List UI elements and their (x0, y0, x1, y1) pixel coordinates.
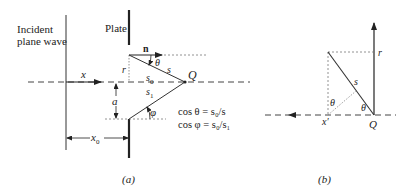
s0-label: s0 (146, 73, 153, 86)
n-label: n (143, 44, 149, 54)
r-label-b: r (378, 48, 382, 58)
point-q-a (183, 80, 186, 83)
q-label-a: Q (188, 69, 197, 81)
incident-label-line2: plane wave (17, 36, 67, 47)
theta-arc (149, 55, 151, 65)
s-label-b: s (354, 77, 358, 87)
s1-line (129, 82, 185, 119)
equation-cos-theta: cos θ = s₀/s (178, 107, 226, 118)
r-label-a: r (122, 65, 126, 75)
theta-label-b2: θ (361, 103, 366, 113)
a-label: a (112, 96, 118, 107)
caption-b: (b) (318, 174, 331, 185)
plate-label: Plate (105, 23, 127, 34)
figure-svg (0, 0, 410, 195)
x-label-a: x (81, 69, 86, 80)
axis-arrowhead-left (288, 112, 296, 118)
x0-label: x0 (91, 132, 99, 146)
phi-label: φ (150, 107, 156, 118)
diffraction-geometry-figure: Incident plane wave Plate n θ r s s0 s1 … (0, 0, 410, 195)
theta-label-a: θ (155, 58, 160, 68)
s1-label: s1 (146, 87, 153, 100)
q-label-b: Q (369, 119, 377, 130)
caption-a: (a) (122, 174, 135, 185)
x-prime-label: x′ (322, 117, 329, 127)
incident-label-line1: Incident (17, 24, 53, 35)
panel-a (28, 10, 250, 158)
theta-label-b1: θ (330, 98, 335, 108)
equation-cos-phi: cos φ = s₀/s₁ (178, 120, 230, 131)
s-label-a: s (167, 65, 171, 75)
